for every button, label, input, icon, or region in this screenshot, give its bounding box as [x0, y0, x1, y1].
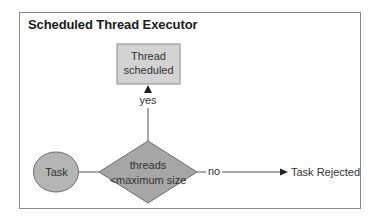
scheduled-node-label-line1: Thread — [117, 50, 180, 63]
arrow-right-icon — [280, 169, 288, 176]
decision-node-label-line2: <maximum size — [103, 174, 193, 187]
decision-node-label-line1: threads — [108, 159, 188, 172]
task-node-label: Task — [34, 166, 79, 179]
no-edge-label: no — [204, 165, 224, 178]
rejected-node-label: Task Rejected — [291, 166, 360, 179]
diagram-canvas — [0, 0, 380, 222]
yes-edge-label: yes — [133, 94, 163, 107]
arrow-up-icon — [144, 85, 152, 93]
scheduled-node-label-line2: scheduled — [117, 64, 180, 77]
decision-node-shape — [99, 141, 197, 203]
